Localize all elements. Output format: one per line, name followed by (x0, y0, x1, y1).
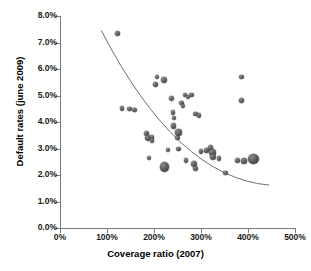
data-point-bubble (184, 158, 188, 162)
data-point-bubble (223, 171, 227, 175)
data-point-bubble (171, 110, 176, 115)
data-point-bubble (169, 96, 174, 101)
data-point-bubble (132, 108, 137, 113)
data-point-bubble (175, 129, 181, 135)
data-point-bubble (239, 98, 244, 103)
y-axis-title: Default rates (june 2009) (14, 37, 25, 187)
data-point-bubble (155, 75, 159, 79)
data-point-bubble (248, 154, 258, 164)
data-point-bubble (199, 149, 204, 154)
data-point-bubble (161, 77, 167, 83)
data-point-bubble (239, 75, 244, 80)
data-point-bubble (172, 116, 176, 120)
data-point-bubble (189, 93, 193, 97)
data-point-bubble (217, 156, 222, 161)
data-point-bubble (210, 154, 216, 160)
data-point-bubble (150, 138, 154, 142)
trendline (0, 0, 311, 271)
bubble-chart: 0.0%1.0%2.0%3.0%4.0%5.0%6.0%7.0%8.0% 0%1… (0, 0, 311, 271)
data-point-bubble (241, 158, 247, 164)
data-point-bubble (160, 162, 169, 171)
data-point-bubble (175, 136, 179, 140)
data-point-bubble (115, 31, 120, 36)
x-axis-title: Coverage ratio (2007) (0, 248, 311, 259)
data-point-bubble (193, 166, 198, 171)
data-point-bubble (197, 113, 202, 118)
